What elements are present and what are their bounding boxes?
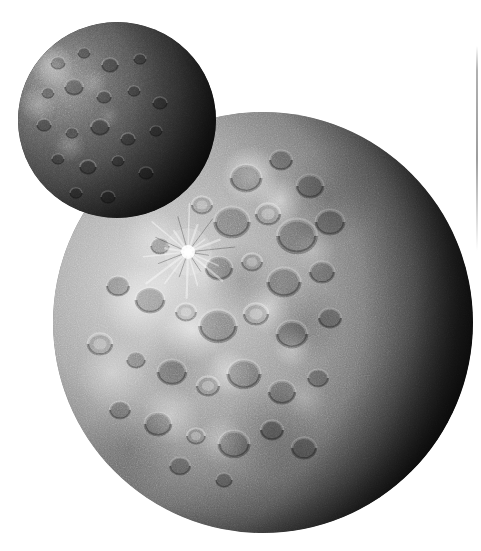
small-moon-terminator bbox=[18, 22, 216, 218]
image-canvas bbox=[0, 0, 481, 551]
scan-edge-line bbox=[476, 46, 478, 251]
small-moon bbox=[18, 22, 216, 218]
